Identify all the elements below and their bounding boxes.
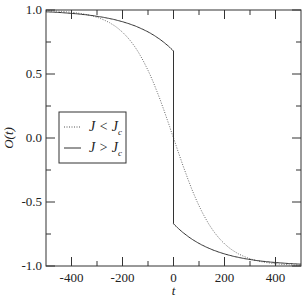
x-tick-label: 200 — [215, 270, 235, 285]
y-tick-label: -1.0 — [21, 258, 42, 273]
x-tick-label: 400 — [266, 270, 286, 285]
x-tick-label: -400 — [60, 270, 84, 285]
y-tick-label: 0.5 — [26, 66, 42, 81]
y-axis-label: O(t) — [1, 127, 16, 149]
x-axis-label: t — [172, 283, 176, 298]
y-tick-label: 1.0 — [26, 2, 42, 17]
y-tick-label: 0.0 — [26, 130, 42, 145]
chart: -400-20002004001.00.50.0-0.5-1.0 t O(t) … — [0, 0, 307, 301]
x-tick-label: -200 — [111, 270, 135, 285]
legend: J < Jc J > Jc — [59, 112, 126, 163]
y-tick-label: -0.5 — [21, 194, 42, 209]
